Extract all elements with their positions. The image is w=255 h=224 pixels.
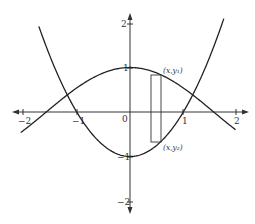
x-tick-label: 0 (122, 114, 128, 124)
y-tick-label: 2 (121, 19, 127, 29)
bottom-point-label: (x,y₂) (163, 143, 183, 152)
plot-canvas: −2 −1 0 1 2 2 1 −1 −2 (x,y₁) (x,y₂) (0, 0, 255, 224)
y-tick-label: −2 (117, 197, 130, 207)
x-tick-label: −2 (18, 116, 31, 126)
representative-rectangle (151, 75, 161, 142)
y-axis-down-arrow-icon (128, 207, 133, 214)
x-tick-label: 2 (234, 116, 240, 126)
x-axis-right-arrow-icon (242, 110, 249, 115)
lower-curve-parabola (39, 19, 224, 157)
x-tick-label: 1 (182, 116, 188, 126)
upper-curve-cos (21, 68, 236, 133)
top-point-label: (x,y₁) (163, 66, 183, 75)
x-tick-label: −1 (72, 116, 85, 126)
y-axis-up-arrow-icon (128, 13, 133, 20)
y-axis (127, 13, 133, 214)
x-axis-left-arrow-icon (12, 110, 19, 115)
